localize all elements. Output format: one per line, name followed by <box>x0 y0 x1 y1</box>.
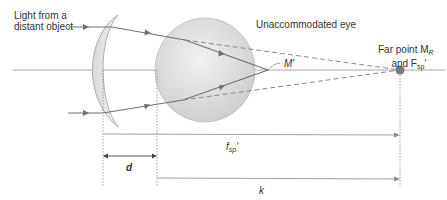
d-label: d <box>126 162 132 173</box>
light-source-line-2: distant object <box>14 21 73 32</box>
arrow-icon <box>145 30 152 36</box>
arrow-icon <box>144 104 150 110</box>
spectacle-lens <box>92 15 118 127</box>
prime-mark: ′ <box>424 58 426 69</box>
arrow-icon <box>83 24 89 30</box>
far-point-and-text: and F <box>391 58 417 69</box>
k-dimension-line <box>157 178 398 179</box>
far-point-text: Far point M <box>378 44 429 55</box>
k-label: k <box>259 185 264 196</box>
arrow-icon <box>394 177 400 182</box>
far-point-label: Far point MR and Fsp′ <box>378 44 434 72</box>
light-source-label: Light from a distant object <box>14 10 73 32</box>
far-point-sub: R <box>429 49 434 56</box>
arrow-icon <box>394 133 400 138</box>
arrow-icon <box>83 110 89 116</box>
light-source-line-1: Light from a <box>14 10 73 21</box>
arrow-icon <box>152 154 157 159</box>
far-point-line-1: Far point MR <box>378 44 434 58</box>
eye-globe <box>155 18 255 122</box>
m-prime-label: M′ <box>284 58 294 69</box>
fsp-label: fsp′ <box>226 141 238 155</box>
arrow-icon <box>103 154 108 159</box>
m-prime-leader <box>268 63 280 70</box>
fsp-dimension-line <box>103 134 398 135</box>
fsp-prime: ′ <box>236 141 238 152</box>
eye-label: Unaccommodated eye <box>256 19 356 30</box>
far-point-line-2: and Fsp′ <box>384 58 434 72</box>
